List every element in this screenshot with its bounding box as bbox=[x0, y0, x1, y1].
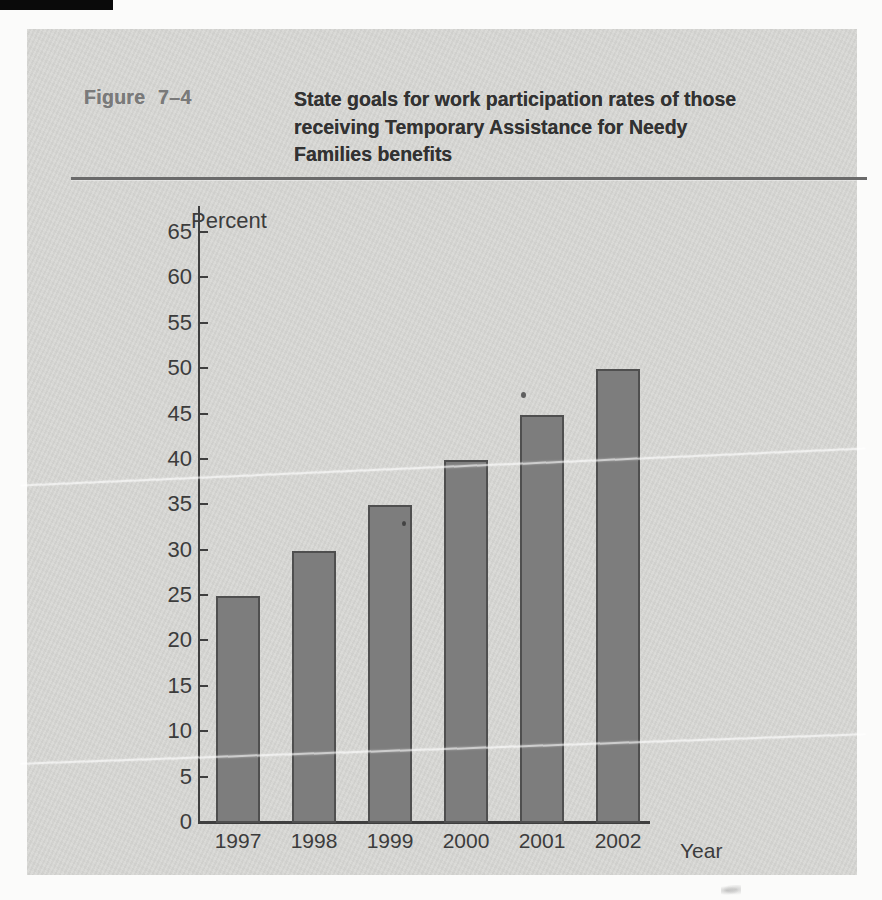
scanned-page: Figure 7–4 State goals for work particip… bbox=[0, 0, 882, 900]
title-divider-rule bbox=[71, 177, 867, 180]
figure-title-line-3: Families benefits bbox=[294, 141, 736, 169]
x-axis-title: Year bbox=[680, 839, 722, 863]
scan-speck-artifact bbox=[402, 521, 406, 526]
figure-title-line-1: State goals for work participation rates… bbox=[294, 86, 736, 114]
figure-title: State goals for work participation rates… bbox=[294, 86, 736, 169]
scan-edge-artifact bbox=[0, 0, 113, 10]
figure-label: Figure 7–4 bbox=[84, 86, 192, 109]
scan-smudge-artifact bbox=[721, 885, 741, 896]
scan-speck-artifact bbox=[521, 392, 526, 398]
figure-title-line-2: receiving Temporary Assistance for Needy bbox=[294, 114, 736, 142]
y-axis-title: Percent bbox=[191, 208, 267, 234]
